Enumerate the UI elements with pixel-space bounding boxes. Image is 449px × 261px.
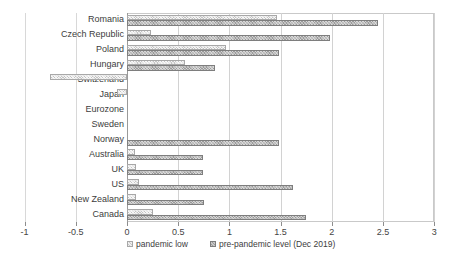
category-label-czech-republic: Czech Republic — [61, 29, 124, 40]
bar-australia-pre-pandemic — [127, 155, 203, 161]
bar-row: Hungary — [0, 58, 449, 73]
tick-mark — [25, 222, 26, 226]
bar-norway-pre-pandemic — [127, 140, 279, 146]
legend-label: pandemic low — [136, 239, 188, 249]
chart-legend: pandemic lowpre-pandemic level (Dec 2019… — [127, 239, 357, 249]
bar-row: Poland — [0, 43, 449, 58]
bar-canada-pre-pandemic — [127, 215, 306, 221]
x-tick-label: 1 — [209, 227, 249, 237]
legend-item[interactable]: pre-pandemic level (Dec 2019) — [210, 239, 335, 249]
category-label-romania: Romania — [88, 14, 124, 25]
x-tick-label: 0 — [107, 227, 147, 237]
x-tick-label: -1 — [5, 227, 45, 237]
tick-mark — [127, 222, 128, 226]
legend-swatch-low — [127, 241, 133, 247]
bar-new-zealand-pre-pandemic — [127, 200, 204, 206]
tick-mark — [178, 222, 179, 226]
tick-mark — [229, 222, 230, 226]
tick-mark — [383, 222, 384, 226]
tick-mark — [332, 222, 333, 226]
category-label-us: US — [111, 179, 124, 190]
bar-row: Australia — [0, 147, 449, 162]
category-label-new-zealand: New Zealand — [71, 194, 124, 205]
category-label-hungary: Hungary — [90, 59, 124, 70]
bar-row: US — [0, 177, 449, 192]
bar-row: Sweden — [0, 118, 449, 133]
x-tick-label: 0.5 — [158, 227, 198, 237]
bar-row: Norway — [0, 132, 449, 147]
tick-mark — [281, 222, 282, 226]
x-tick-label: -0.5 — [56, 227, 96, 237]
category-label-canada: Canada — [92, 209, 124, 220]
category-label-norway: Norway — [93, 134, 124, 145]
bar-poland-pre-pandemic — [127, 50, 279, 56]
bar-romania-pre-pandemic — [127, 20, 378, 26]
bar-uk-pre-pandemic — [127, 170, 203, 176]
policy-rate-bar-chart: -1-0.500.511.522.53 RomaniaCzech Republi… — [0, 0, 449, 261]
bar-czech-republic-pre-pandemic — [127, 35, 330, 41]
legend-item[interactable]: pandemic low — [127, 239, 188, 249]
tick-mark — [434, 222, 435, 226]
bar-us-pre-pandemic — [127, 185, 293, 191]
category-label-sweden: Sweden — [91, 119, 124, 130]
x-tick-label: 1.5 — [261, 227, 301, 237]
category-label-uk: UK — [111, 164, 124, 175]
bar-row: Canada — [0, 207, 449, 222]
bar-row: Czech Republic — [0, 28, 449, 43]
x-tick-label: 2 — [312, 227, 352, 237]
legend-swatch-pre — [210, 241, 216, 247]
bar-hungary-pre-pandemic — [127, 65, 215, 71]
bar-row: Romania — [0, 13, 449, 28]
category-label-poland: Poland — [96, 44, 124, 55]
x-tick-label: 3 — [414, 227, 449, 237]
category-label-eurozone: Eurozone — [85, 104, 124, 115]
bar-row: UK — [0, 162, 449, 177]
bar-row: Japan — [0, 88, 449, 103]
bar-row: New Zealand — [0, 192, 449, 207]
bar-row: Switzerland — [0, 73, 449, 88]
tick-mark — [76, 222, 77, 226]
legend-label: pre-pandemic level (Dec 2019) — [219, 239, 335, 249]
x-tick-label: 2.5 — [363, 227, 403, 237]
bar-japan-pandemic-low — [117, 89, 127, 95]
bar-switzerland-pandemic-low — [50, 74, 127, 80]
category-label-australia: Australia — [89, 149, 124, 160]
bar-row: Eurozone — [0, 103, 449, 118]
